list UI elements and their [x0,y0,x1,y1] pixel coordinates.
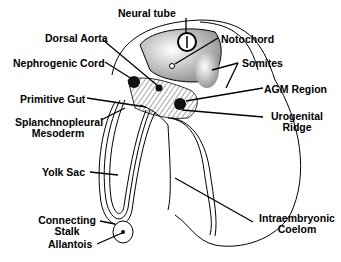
label-splanchnopleural-mesoderm: Splanchnopleural Mesoderm [15,117,101,139]
label-dorsal-aorta: Dorsal Aorta [45,33,108,44]
label-urogenital-ridge: Urogenital Ridge [262,111,332,133]
label-intraembryonic-coelom: Intraembryonic Coelom [254,213,340,235]
label-yolk-sac: Yolk Sac [42,167,85,178]
label-notochord: Notochord [221,34,274,45]
label-neural-tube: Neural tube [118,8,176,19]
label-somites: Somites [242,58,283,69]
label-connecting-stalk: Connecting Stalk [36,215,98,237]
label-primitive-gut: Primitive Gut [20,94,85,105]
label-agm-region: AGM Region [264,84,327,95]
label-nephrogenic-cord: Nephrogenic Cord [13,58,105,69]
label-allantois: Allantois [48,239,92,250]
